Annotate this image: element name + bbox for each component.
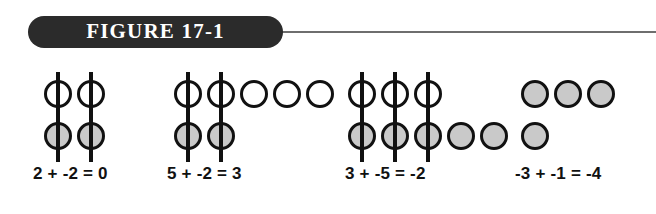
strikethrough-line bbox=[360, 116, 364, 162]
strikethrough-line bbox=[393, 116, 397, 162]
counter-disc bbox=[273, 80, 301, 108]
counter-group bbox=[348, 76, 513, 154]
counter-row-top bbox=[348, 76, 447, 112]
strikethrough-line bbox=[56, 116, 60, 162]
counter-diagram-groups: 2 + -2 = 05 + -2 = 33 + -5 = -2-3 + -1 =… bbox=[0, 76, 656, 196]
white-circle-counter bbox=[414, 80, 442, 108]
counter-disc bbox=[306, 80, 334, 108]
white-circle-counter bbox=[306, 80, 334, 108]
gray-circle-counter bbox=[447, 122, 475, 150]
counter-disc bbox=[447, 122, 475, 150]
gray-circle-counter bbox=[77, 122, 105, 150]
strikethrough-line bbox=[89, 116, 93, 162]
equation-label: -3 + -1 = -4 bbox=[515, 164, 602, 184]
counter-row-bottom bbox=[521, 118, 554, 154]
white-circle-counter bbox=[240, 80, 268, 108]
counter-group bbox=[174, 76, 339, 154]
gray-circle-counter bbox=[587, 80, 615, 108]
white-circle-counter bbox=[174, 80, 202, 108]
counter-disc bbox=[240, 80, 268, 108]
gray-circle-counter bbox=[414, 122, 442, 150]
gray-circle-counter bbox=[174, 122, 202, 150]
gray-circle-counter bbox=[381, 122, 409, 150]
strikethrough-line bbox=[186, 116, 190, 162]
equation-label: 2 + -2 = 0 bbox=[33, 164, 108, 184]
counter-disc bbox=[521, 122, 549, 150]
counter-row-top bbox=[521, 76, 620, 112]
strikethrough-line bbox=[89, 72, 93, 118]
figure-header: FIGURE 17-1 bbox=[0, 16, 656, 48]
strikethrough-line bbox=[393, 72, 397, 118]
strikethrough-line bbox=[360, 72, 364, 118]
counter-row-bottom bbox=[348, 118, 513, 154]
gray-circle-counter bbox=[44, 122, 72, 150]
gray-circle-counter bbox=[521, 122, 549, 150]
counter-row-top bbox=[174, 76, 339, 112]
white-circle-counter bbox=[381, 80, 409, 108]
counter-row-bottom bbox=[174, 118, 240, 154]
white-circle-counter bbox=[348, 80, 376, 108]
counter-disc bbox=[480, 122, 508, 150]
counter-row-bottom bbox=[44, 118, 110, 154]
white-circle-counter bbox=[207, 80, 235, 108]
gray-circle-counter bbox=[521, 80, 549, 108]
figure-header-rule bbox=[270, 31, 656, 33]
counter-disc bbox=[587, 80, 615, 108]
strikethrough-line bbox=[219, 116, 223, 162]
white-circle-counter bbox=[77, 80, 105, 108]
equation-label: 5 + -2 = 3 bbox=[167, 164, 242, 184]
white-circle-counter bbox=[44, 80, 72, 108]
strikethrough-line bbox=[56, 72, 60, 118]
counter-group bbox=[44, 76, 110, 154]
counter-group bbox=[521, 76, 620, 154]
white-circle-counter bbox=[273, 80, 301, 108]
strikethrough-line bbox=[426, 72, 430, 118]
gray-circle-counter bbox=[207, 122, 235, 150]
equation-label: 3 + -5 = -2 bbox=[345, 164, 426, 184]
counter-disc bbox=[554, 80, 582, 108]
counter-row-top bbox=[44, 76, 110, 112]
counter-disc bbox=[521, 80, 549, 108]
strikethrough-line bbox=[219, 72, 223, 118]
strikethrough-line bbox=[426, 116, 430, 162]
gray-circle-counter bbox=[554, 80, 582, 108]
strikethrough-line bbox=[186, 72, 190, 118]
gray-circle-counter bbox=[480, 122, 508, 150]
figure-label-pill: FIGURE 17-1 bbox=[28, 16, 283, 48]
figure-label-text: FIGURE 17-1 bbox=[86, 21, 225, 44]
gray-circle-counter bbox=[348, 122, 376, 150]
